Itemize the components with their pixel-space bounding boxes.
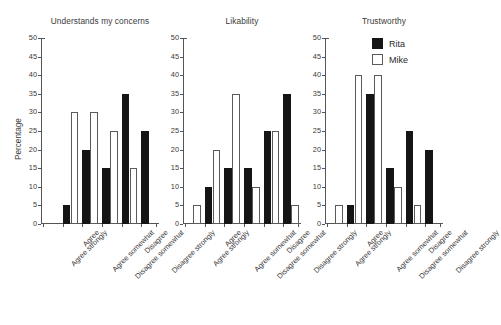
y-tick-label: 15	[29, 164, 37, 171]
x-tick	[264, 224, 265, 227]
bar-rita-2	[205, 187, 213, 224]
bar-rita-6	[283, 94, 291, 224]
y-tick-label: 45	[29, 53, 37, 60]
bar-rita-2	[347, 205, 355, 224]
y-tick	[322, 224, 325, 225]
bar-mike-5	[130, 168, 138, 224]
bar-mike-3	[374, 75, 382, 224]
panel-title: Understands my concerns	[41, 16, 159, 26]
bar-rita-3	[82, 150, 90, 224]
y-tick	[322, 150, 325, 151]
bar-mike-2	[355, 75, 363, 224]
x-tick	[440, 224, 441, 227]
y-tick	[38, 131, 41, 132]
y-tick	[38, 57, 41, 58]
y-tick-label: 45	[313, 53, 321, 60]
y-tick	[322, 75, 325, 76]
x-tick	[425, 224, 426, 227]
x-tick	[185, 224, 186, 227]
y-tick-label: 10	[29, 183, 37, 190]
y-tick	[38, 75, 41, 76]
bar-mike-5	[272, 131, 280, 224]
y-tick-label: 20	[171, 146, 179, 153]
y-tick-label: 15	[313, 164, 321, 171]
y-tick-label: 25	[29, 127, 37, 134]
y-tick-label: 30	[29, 109, 37, 116]
y-tick-label: 40	[313, 71, 321, 78]
y-tick	[322, 94, 325, 95]
y-tick	[38, 38, 41, 39]
panel-3: Trustworthy05101520253035404550Agree str…	[325, 16, 443, 246]
y-tick-label: 35	[29, 90, 37, 97]
bar-mike-2	[213, 150, 221, 224]
bar-rita-5	[406, 131, 414, 224]
y-tick	[180, 38, 183, 39]
y-tick	[180, 205, 183, 206]
y-tick	[322, 57, 325, 58]
y-tick	[322, 112, 325, 113]
bar-rita-6	[141, 131, 149, 224]
y-tick-label: 25	[171, 127, 179, 134]
bar-rita-4	[244, 168, 252, 224]
y-tick	[180, 150, 183, 151]
bar-mike-3	[232, 94, 240, 224]
y-tick	[180, 168, 183, 169]
bar-mike-3	[90, 112, 98, 224]
y-tick-label: 10	[313, 183, 321, 190]
y-tick	[38, 150, 41, 151]
x-axis-category-labels: Agree stronglyAgreeAgree somewhatDisagre…	[325, 228, 443, 308]
y-tick-label: 40	[171, 71, 179, 78]
y-tick-label: 10	[171, 183, 179, 190]
bar-rita-4	[386, 168, 394, 224]
bar-rita-5	[264, 131, 272, 224]
y-tick-label: 0	[33, 220, 37, 227]
y-tick	[38, 112, 41, 113]
y-axis-label: Percentage	[14, 118, 23, 160]
bar-mike-6	[291, 205, 299, 224]
x-tick	[347, 224, 348, 227]
bar-rita-6	[425, 150, 433, 224]
y-axis-line	[41, 38, 42, 224]
y-tick-label: 40	[29, 71, 37, 78]
y-tick	[38, 187, 41, 188]
y-tick-label: 30	[313, 109, 321, 116]
y-tick	[322, 187, 325, 188]
x-tick	[205, 224, 206, 227]
y-tick	[180, 224, 183, 225]
y-tick	[38, 168, 41, 169]
bar-mike-1	[193, 205, 201, 224]
panel-2: Likability05101520253035404550Agree stro…	[183, 16, 301, 246]
plot-area: 05101520253035404550	[41, 38, 159, 224]
y-tick-label: 30	[171, 109, 179, 116]
bar-rita-3	[224, 168, 232, 224]
bar-mike-1	[335, 205, 343, 224]
bar-mike-2	[71, 112, 79, 224]
bar-rita-4	[102, 168, 110, 224]
y-tick	[38, 205, 41, 206]
y-tick-label: 25	[313, 127, 321, 134]
bar-rita-3	[366, 94, 374, 224]
bar-rita-2	[63, 205, 71, 224]
y-axis-top-cap	[41, 38, 45, 39]
bar-mike-4	[394, 187, 402, 224]
y-tick-label: 0	[175, 220, 179, 227]
x-tick	[366, 224, 367, 227]
y-tick-label: 15	[171, 164, 179, 171]
panel-1: Understands my concerns05101520253035404…	[41, 16, 159, 246]
y-tick	[38, 94, 41, 95]
y-tick-label: 0	[317, 220, 321, 227]
x-tick	[122, 224, 123, 227]
y-tick-label: 5	[175, 202, 179, 209]
y-tick	[180, 94, 183, 95]
x-tick	[63, 224, 64, 227]
y-tick-label: 50	[29, 34, 37, 41]
y-tick-label: 20	[29, 146, 37, 153]
y-tick	[180, 187, 183, 188]
y-tick-label: 50	[313, 34, 321, 41]
y-tick-label: 5	[317, 202, 321, 209]
panel-title: Trustworthy	[325, 16, 443, 26]
plot-area: 05101520253035404550	[183, 38, 301, 224]
bar-mike-4	[110, 131, 118, 224]
x-tick	[156, 224, 157, 227]
